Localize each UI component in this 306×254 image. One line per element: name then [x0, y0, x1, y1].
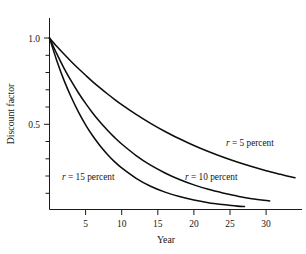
discount-factor-line-chart: 1.0 0.5 5 10 15 20 25 30 Year Discount f… — [0, 0, 306, 254]
x-tick-label-5: 5 — [83, 219, 88, 229]
annotation-r-10-percent: r = 10 percent — [185, 172, 238, 182]
x-axis-title: Year — [157, 234, 176, 245]
annotation-r-15-percent: r = 15 percent — [62, 172, 115, 182]
x-tick-label-30: 30 — [261, 219, 271, 229]
annotation-r-5-percent: r = 5 percent — [226, 138, 274, 148]
x-tick-label-20: 20 — [189, 219, 199, 229]
y-tick-label-0.5: 0.5 — [28, 120, 40, 130]
x-axis-ticks — [86, 210, 267, 216]
y-axis-ticks — [44, 38, 50, 193]
y-tick-label-1.0: 1.0 — [28, 34, 40, 44]
curve-annotations: r = 5 percent r = 10 percent r = 15 perc… — [62, 138, 274, 182]
discount-factor-chart-figure: 1.0 0.5 5 10 15 20 25 30 Year Discount f… — [0, 0, 306, 254]
x-tick-label-15: 15 — [153, 219, 163, 229]
curve-r-5-percent — [50, 38, 295, 178]
x-tick-label-10: 10 — [117, 219, 127, 229]
x-tick-label-25: 25 — [225, 219, 235, 229]
y-axis-title: Discount factor — [5, 83, 16, 144]
